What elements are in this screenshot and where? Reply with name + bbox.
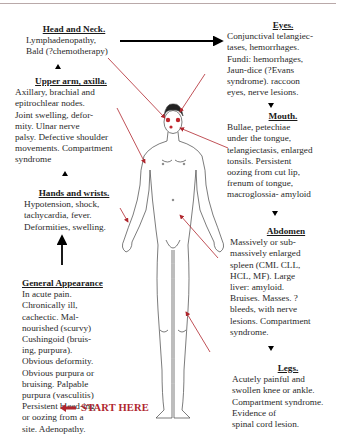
section-title: Eyes. xyxy=(227,20,339,31)
section-line: Deformities, swelling. xyxy=(24,222,124,233)
section-line: bruising. Palpable xyxy=(22,379,118,390)
arrow-left-icon xyxy=(60,403,76,414)
section-line: tases, hemorrhages. xyxy=(227,42,339,53)
section-line: movements. Compartment xyxy=(15,143,127,154)
section-head-neck: Head and Neck. Lymphadenopathy, Bald (?c… xyxy=(18,24,130,58)
section-line: macroglossia- amyloid xyxy=(227,189,339,200)
section-line: purpura (vasculitis) xyxy=(22,390,118,401)
section-title: Hands and wrists. xyxy=(24,188,124,199)
section-line: Lymphadenopathy, xyxy=(18,35,130,46)
section-line: Compartment syndrome. xyxy=(232,397,344,408)
section-line: or oozing from a xyxy=(22,412,118,423)
section-line: oozing from cut lip, xyxy=(227,167,339,178)
section-abdomen: Abdomen Massively or sub- massively enla… xyxy=(230,226,342,338)
section-line: under the tongue, xyxy=(227,133,339,144)
section-title: Abdomen xyxy=(230,226,342,237)
section-line: telangiectasis, enlarged xyxy=(227,145,339,156)
section-line: HCL, MF). Large xyxy=(230,271,342,282)
section-legs: Legs. Acutely painful and swollen knee o… xyxy=(232,363,344,430)
arrow-up-icon xyxy=(55,64,61,69)
human-figure xyxy=(122,104,223,418)
start-here-label: START HERE xyxy=(60,402,149,414)
section-line: Chronically ill, xyxy=(22,300,118,311)
section-line: tachycardia, fever. xyxy=(24,210,124,221)
section-line: Fundi: hemorrhages, xyxy=(227,54,339,65)
arrow-down-icon xyxy=(268,103,274,108)
section-line: Massively or sub- xyxy=(230,237,342,248)
section-line: ing, purpura). xyxy=(22,345,118,356)
section-title: Upper arm, axilla. xyxy=(15,76,127,87)
section-mouth: Mouth. Bullae, petechiae under the tongu… xyxy=(227,111,339,201)
section-line: epitrochlear nodes. xyxy=(15,98,127,109)
section-line: syndrome xyxy=(15,154,127,165)
top-rule xyxy=(0,3,336,4)
section-line: palsy. Defective shoulder xyxy=(15,132,127,143)
section-line: Jaun-dice (?Evans xyxy=(227,65,339,76)
section-line: Evidence of xyxy=(232,408,344,419)
section-line: syndrome). raccoon xyxy=(227,76,339,87)
section-line: Bruises. Masses. ? xyxy=(230,293,342,304)
section-line: bleeds, with nerve xyxy=(230,304,342,315)
section-title: Legs. xyxy=(232,363,344,374)
section-line: nourished (scurvy) xyxy=(22,323,118,334)
section-line: lesions. Compartment xyxy=(230,316,342,327)
section-line: frenum of tongue, xyxy=(227,178,339,189)
section-line: Obvious deformity. xyxy=(22,356,118,367)
section-line: mity. Ulnar nerve xyxy=(15,121,127,132)
arrow-up-icon xyxy=(62,171,68,176)
section-line: Conjunctival telangiec- xyxy=(227,31,339,42)
section-title: Mouth. xyxy=(227,111,339,122)
arrow-down-icon xyxy=(272,211,278,216)
section-line: Axillary, brachial and xyxy=(15,87,127,98)
section-line: Hypotension, shock, xyxy=(24,199,124,210)
section-line: Acutely painful and xyxy=(232,374,344,385)
section-line: syndrome. xyxy=(230,327,342,338)
section-line: spleen (CML CLL, xyxy=(230,260,342,271)
section-hands-wrists: Hands and wrists. Hypotension, shock, ta… xyxy=(24,188,124,233)
section-line: eyes, nerve lesions. xyxy=(227,87,339,98)
section-line: Bald (?chemotherapy) xyxy=(18,46,130,57)
section-line: Cushingoid (bruis- xyxy=(22,334,118,345)
section-line: liver: amyloid. xyxy=(230,282,342,293)
section-title: Head and Neck. xyxy=(18,24,130,35)
section-line: massively enlarged xyxy=(230,248,342,259)
section-line: Joint swelling, defor- xyxy=(15,110,127,121)
section-line: tonsils. Persistent xyxy=(227,156,339,167)
section-line: cachectic. Mal- xyxy=(22,312,118,323)
section-line: Bullae, petechiae xyxy=(227,122,339,133)
section-line: swollen knee or ankle. xyxy=(232,385,344,396)
section-upper-arm: Upper arm, axilla. Axillary, brachial an… xyxy=(15,76,127,166)
section-line: In acute pain. xyxy=(22,289,118,300)
section-eyes: Eyes. Conjunctival telangiec- tases, hem… xyxy=(227,20,339,98)
section-line: Obvious purpura or xyxy=(22,368,118,379)
arrow-down-icon xyxy=(268,346,274,351)
section-line: spinal cord lesion. xyxy=(232,419,344,430)
section-title: General Appearance xyxy=(22,278,118,289)
section-line: site. Adenopathy. xyxy=(22,424,118,435)
